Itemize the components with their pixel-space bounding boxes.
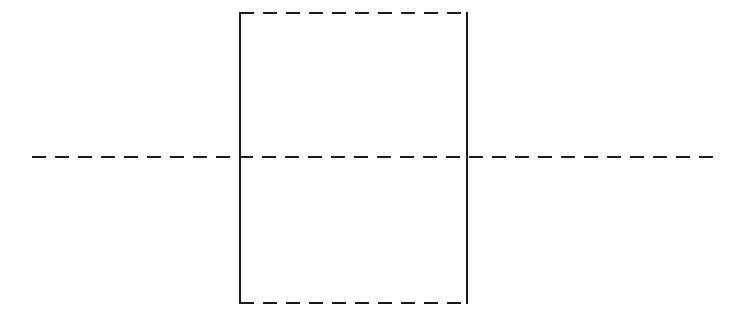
canvas-background [0, 0, 756, 324]
figure-canvas [0, 0, 756, 324]
line-drawing-svg [0, 0, 756, 324]
